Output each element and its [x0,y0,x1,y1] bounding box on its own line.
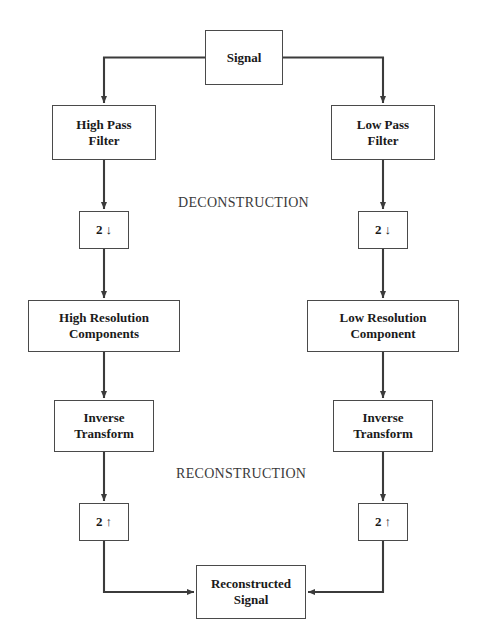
stage-label-deconstruction: DECONSTRUCTION [178,195,309,211]
node-low-pass-filter: Low Pass Filter [331,105,435,160]
node-high-pass-filter: High Pass Filter [52,105,156,160]
node-high-resolution-components: High Resolution Components [28,300,180,352]
down-arrow-icon: ↓ [103,222,113,238]
node-inverse-transform-right-label: Inverse Transform [353,410,413,442]
up-arrow-icon: ↑ [103,514,113,530]
node-signal-label: Signal [227,50,262,66]
node-low-resolution-component: Low Resolution Component [307,300,459,352]
node-low-resolution-component-label: Low Resolution Component [339,310,426,342]
node-high-pass-filter-label: High Pass Filter [76,117,131,149]
node-downsample-right: 2 ↓ [358,211,408,249]
node-downsample-left: 2 ↓ [79,211,129,249]
connector-signal-to-low-pass [283,58,383,104]
node-inverse-transform-left: Inverse Transform [54,400,154,452]
node-reconstructed-signal-label: Reconstructed Signal [211,576,291,608]
node-signal: Signal [205,30,283,85]
node-inverse-transform-left-label: Inverse Transform [74,410,134,442]
node-reconstructed-signal: Reconstructed Signal [196,565,306,619]
stage-label-reconstruction: RECONSTRUCTION [176,466,306,482]
up-arrow-icon: ↑ [382,514,392,530]
connector-upsample-left-to-reconstructed [104,541,194,592]
node-upsample-right: 2 ↑ [358,503,408,541]
node-low-pass-filter-label: Low Pass Filter [357,117,409,149]
connector-upsample-right-to-reconstructed [308,541,383,592]
node-upsample-left: 2 ↑ [79,503,129,541]
down-arrow-icon: ↓ [382,222,392,238]
node-inverse-transform-right: Inverse Transform [333,400,433,452]
wavelet-transform-diagram: Signal High Pass Filter Low Pass Filter … [0,0,481,644]
node-high-resolution-components-label: High Resolution Components [59,310,149,342]
connector-signal-to-high-pass [104,58,205,104]
